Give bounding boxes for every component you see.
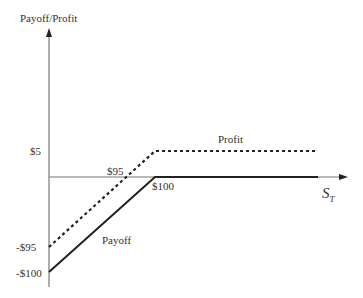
chart-canvas [0,0,363,298]
x-annotation-95: $95 [107,166,124,177]
y-axis-arrow-icon [46,28,52,37]
profit-series-label: Profit [218,134,243,145]
payoff-series-label: Payoff [102,235,131,246]
payoff-line [49,177,318,272]
y-tick-5: $5 [30,146,41,157]
x-axis-label-sub: T [330,194,335,204]
y-tick-neg100: -$100 [16,268,42,279]
x-axis-label: ST [322,186,335,204]
y-tick-neg95: -$95 [16,242,36,253]
x-annotation-100: $100 [152,181,174,192]
y-axis-label: Payoff/Profit [20,13,77,24]
x-axis-arrow-icon [339,174,348,180]
x-axis-label-main: S [322,185,330,201]
profit-line [49,151,318,247]
